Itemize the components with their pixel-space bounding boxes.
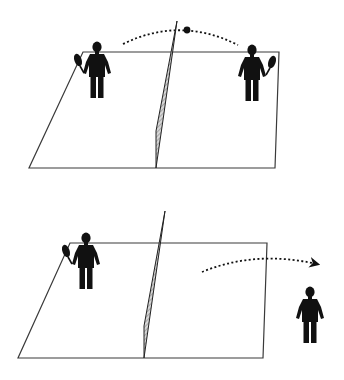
off-court-player-icon <box>296 287 324 343</box>
top-ball-trajectory <box>123 30 238 45</box>
bottom-court <box>18 243 267 358</box>
tennis-diagram: Rally in progress: ball travels over the… <box>0 0 344 380</box>
tennis-ball-icon <box>184 27 191 34</box>
top-panel <box>29 21 279 168</box>
bottom-panel <box>18 211 324 358</box>
diagram-canvas <box>0 0 344 380</box>
